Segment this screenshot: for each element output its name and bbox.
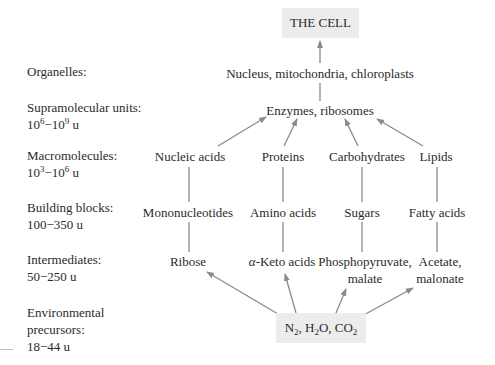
level-range: 100−350 u [27, 216, 113, 233]
level-macromolecules: Macromolecules: 103−106 u [27, 147, 117, 181]
arrow-carbohydrates-to-enzymes [345, 119, 358, 146]
divider-stub [0, 349, 13, 350]
arrow-nucleic-acids-to-enzymes [218, 117, 266, 146]
arrow-precursors-to-keto-acids [285, 274, 296, 313]
node-supramolecular: Enzymes, ribosomes [266, 102, 374, 119]
cell-box-label: THE CELL [290, 15, 351, 31]
node-nucleic-acids: Nucleic acids [155, 148, 225, 165]
level-range: 18−44 u [27, 338, 104, 355]
level-building-blocks: Building blocks: 100−350 u [27, 199, 113, 233]
level-label-line1: Environmental [27, 304, 104, 321]
node-sugars: Sugars [344, 204, 379, 221]
level-label: Macromolecules: [27, 147, 117, 164]
arrow-precursors-to-phosphopyruvate [336, 289, 346, 313]
level-label: Organelles: [27, 63, 87, 80]
level-label: Building blocks: [27, 199, 113, 216]
cell-box: THE CELL [282, 8, 359, 38]
arrow-precursors-to-acetate [362, 288, 413, 316]
level-range: 106−109 u [27, 116, 141, 133]
node-keto-acids: α-Keto acids [249, 253, 315, 270]
node-acetate-malonate: Acetate, malonate [416, 253, 464, 287]
arrow-proteins-to-enzymes [284, 119, 297, 146]
node-proteins: Proteins [262, 148, 305, 165]
node-phosphopyruvate-malate: Phosphopyruvate, malate [318, 253, 412, 287]
level-intermediates: Intermediates: 50−250 u [27, 251, 101, 285]
level-organelles: Organelles: [27, 63, 87, 80]
level-supramolecular: Supramolecular units: 106−109 u [27, 99, 141, 133]
level-label: Supramolecular units: [27, 99, 141, 116]
level-label: Intermediates: [27, 251, 101, 268]
level-label-line2: precursors: [27, 321, 104, 338]
arrow-lipids-to-enzymes [377, 119, 423, 146]
node-fatty-acids: Fatty acids [409, 204, 466, 221]
node-organelles: Nucleus, mitochondria, chloroplasts [226, 65, 414, 82]
alpha-symbol: α [249, 254, 256, 269]
node-lipids: Lipids [419, 148, 452, 165]
node-amino-acids: Amino acids [250, 204, 316, 221]
precursors-label: N2, H2O, CO2 [285, 320, 358, 336]
node-mononucleotides: Mononucleotides [143, 204, 233, 221]
precursors-box: N2, H2O, CO2 [276, 313, 366, 343]
node-carbohydrates: Carbohydrates [329, 148, 405, 165]
node-ribose: Ribose [170, 253, 206, 270]
arrow-precursors-to-ribose [207, 272, 278, 314]
level-range: 103−106 u [27, 164, 117, 181]
level-environmental: Environmental precursors: 18−44 u [27, 304, 104, 355]
level-range: 50−250 u [27, 268, 101, 285]
